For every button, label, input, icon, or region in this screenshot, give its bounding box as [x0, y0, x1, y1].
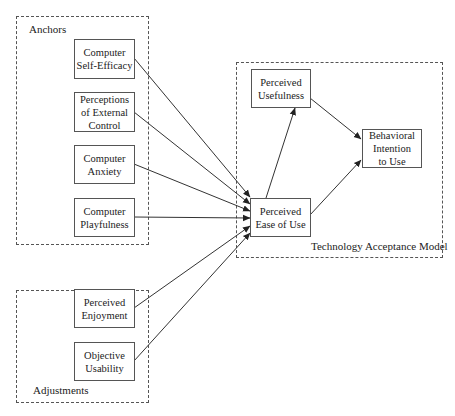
node-perceived-ease-of-use: Perceived Ease of Use — [250, 198, 311, 237]
node-perceived-enjoyment-label: Perceived Enjoyment — [81, 296, 127, 322]
arrow-usefulness-to-intention — [310, 98, 361, 139]
node-perceived-usefulness: Perceived Usefulness — [251, 69, 311, 108]
node-objective-usability-label: Objective Usability — [84, 349, 125, 375]
node-behavioral-intention-label: Behavioral Intention to Use — [369, 129, 415, 168]
node-perceptions-external-control: Perceptions of External Control — [74, 92, 135, 132]
node-perceived-ease-of-use-label: Perceived Ease of Use — [255, 205, 305, 231]
node-computer-self-efficacy: Computer Self-Efficacy — [74, 39, 135, 79]
node-objective-usability: Objective Usability — [74, 342, 135, 381]
node-behavioral-intention: Behavioral Intention to Use — [362, 129, 422, 168]
node-computer-anxiety-label: Computer Anxiety — [84, 152, 126, 178]
arrow-self-efficacy-to-ease — [134, 58, 250, 197]
arrow-ease-to-intention — [310, 160, 361, 215]
node-computer-playfulness: Computer Playfulness — [74, 198, 135, 237]
arrow-ease-to-usefulness — [266, 108, 295, 198]
arrow-usability-to-ease — [134, 233, 250, 361]
node-perceptions-external-control-label: Perceptions of External Control — [80, 93, 129, 132]
arrow-enjoyment-to-ease — [134, 226, 250, 308]
arrow-anxiety-to-ease — [134, 164, 250, 211]
arrow-external-control-to-ease — [134, 112, 250, 204]
arrows-layer — [0, 0, 455, 416]
node-perceived-usefulness-label: Perceived Usefulness — [258, 76, 304, 102]
arrow-playfulness-to-ease — [134, 217, 250, 218]
node-computer-playfulness-label: Computer Playfulness — [80, 205, 128, 231]
node-computer-self-efficacy-label: Computer Self-Efficacy — [77, 46, 133, 72]
node-perceived-enjoyment: Perceived Enjoyment — [74, 289, 135, 328]
node-computer-anxiety: Computer Anxiety — [74, 145, 135, 184]
